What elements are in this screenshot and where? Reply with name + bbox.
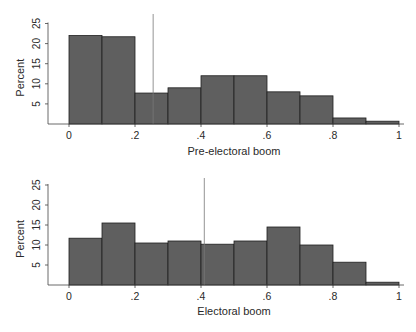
histogram-bar [69, 238, 102, 285]
y-tick-label: 10 [31, 78, 42, 90]
histogram-bar [234, 76, 267, 124]
y-tick-label: 5 [31, 101, 42, 107]
y-tick-label: 15 [31, 219, 42, 231]
histogram-bar [234, 241, 267, 285]
histogram-bar [201, 76, 234, 124]
histogram-panel-electoral: 510152025Percent0.2.4.6.81Electoral boom [14, 178, 404, 317]
histogram-panel-pre-electoral: 510152025Percent0.2.4.6.81Pre-electoral … [14, 14, 404, 157]
x-tick-label: 1 [396, 290, 402, 302]
y-tick-label: 15 [31, 58, 42, 70]
histogram-bar [168, 88, 201, 124]
x-tick-label: .6 [263, 290, 272, 302]
histogram-bar [102, 223, 135, 285]
histogram-bar [333, 262, 366, 285]
x-tick-label: .2 [131, 290, 140, 302]
x-tick-label: 0 [66, 129, 72, 141]
histogram-bar [333, 118, 366, 124]
x-tick-label: .8 [329, 290, 338, 302]
histogram-bar [135, 93, 168, 124]
bars [69, 36, 399, 124]
x-tick-label: 0 [66, 290, 72, 302]
histogram-bar [102, 37, 135, 124]
figure: 510152025Percent0.2.4.6.81Pre-electoral … [0, 0, 416, 332]
histogram-bar [300, 96, 333, 124]
y-tick-label: 10 [31, 239, 42, 251]
histogram-bar [135, 243, 168, 285]
x-axis-label: Pre-electoral boom [188, 145, 281, 157]
histogram-bar [300, 245, 333, 285]
bars [69, 223, 399, 285]
x-tick-label: .8 [329, 129, 338, 141]
x-tick-label: 1 [396, 129, 402, 141]
histogram-bar [267, 227, 300, 285]
y-axis-label: Percent [14, 59, 26, 97]
y-axis-label: Percent [14, 220, 26, 258]
histogram-figure: 510152025Percent0.2.4.6.81Pre-electoral … [0, 0, 416, 332]
x-tick-label: .4 [197, 290, 206, 302]
x-tick-label: .2 [131, 129, 140, 141]
x-tick-label: .6 [263, 129, 272, 141]
histogram-bar [267, 92, 300, 124]
y-tick-label: 5 [31, 262, 42, 268]
y-tick-label: 25 [31, 18, 42, 30]
y-tick-label: 25 [31, 179, 42, 191]
histogram-bar [366, 121, 399, 124]
x-axis-label: Electoral boom [197, 305, 270, 317]
y-tick-label: 20 [31, 38, 42, 50]
histogram-bar [69, 36, 102, 124]
histogram-bar [366, 282, 399, 285]
y-tick-label: 20 [31, 199, 42, 211]
histogram-bar [168, 241, 201, 285]
histogram-bar [201, 244, 234, 285]
x-tick-label: .4 [197, 129, 206, 141]
